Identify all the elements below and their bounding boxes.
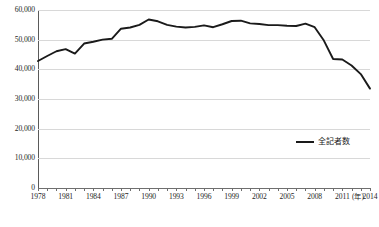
x-tick-mark: [222, 188, 223, 191]
x-tick-mark: [93, 188, 94, 191]
series-line-total-reporters: [38, 19, 370, 88]
x-tick-mark: [176, 188, 177, 191]
x-tick-mark: [278, 188, 279, 191]
x-axis-labels: 1978198119841987199019931996199920022005…: [0, 192, 379, 204]
y-tick-label: 40,000: [15, 65, 35, 73]
x-tick-label: 2011: [335, 192, 350, 201]
x-tick-mark: [342, 188, 343, 191]
x-tick-mark: [121, 188, 122, 191]
x-tick-mark: [287, 188, 288, 191]
x-tick-label: 1981: [58, 192, 73, 201]
x-tick-label: 1993: [169, 192, 184, 201]
x-tick-mark: [232, 188, 233, 191]
plot-area: [38, 10, 370, 188]
x-tick-mark: [204, 188, 205, 191]
x-tick-mark: [47, 188, 48, 191]
x-tick-label: 2008: [307, 192, 322, 201]
y-tick-label: 50,000: [15, 36, 35, 44]
x-tick-mark: [75, 188, 76, 191]
x-tick-mark: [84, 188, 85, 191]
x-tick-mark: [38, 188, 39, 191]
x-axis-unit-label: (年): [352, 192, 364, 201]
x-tick-mark: [149, 188, 150, 191]
legend-line-swatch: [296, 141, 314, 143]
y-tick-label: 30,000: [15, 95, 35, 103]
x-axis-ticks: [38, 188, 370, 191]
x-tick-label: 1999: [224, 192, 239, 201]
chart-figure: 010,00020,00030,00040,00050,00060,000 19…: [0, 0, 379, 227]
series-layer: [38, 10, 370, 188]
x-tick-mark: [305, 188, 306, 191]
x-tick-mark: [130, 188, 131, 191]
x-tick-mark: [139, 188, 140, 191]
x-tick-mark: [66, 188, 67, 191]
x-tick-mark: [315, 188, 316, 191]
x-tick-mark: [167, 188, 168, 191]
x-tick-mark: [269, 188, 270, 191]
x-tick-mark: [361, 188, 362, 191]
chart-legend: 全記者数: [296, 137, 350, 146]
x-tick-mark: [213, 188, 214, 191]
x-tick-mark: [112, 188, 113, 191]
x-tick-mark: [324, 188, 325, 191]
x-tick-mark: [186, 188, 187, 191]
y-tick-label: 20,000: [15, 125, 35, 133]
x-tick-mark: [103, 188, 104, 191]
y-tick-label: 0: [31, 184, 35, 192]
y-tick-label: 10,000: [15, 154, 35, 162]
x-tick-label: 2014: [363, 192, 378, 201]
x-tick-mark: [250, 188, 251, 191]
x-tick-mark: [158, 188, 159, 191]
x-tick-mark: [352, 188, 353, 191]
x-tick-label: 1987: [114, 192, 129, 201]
x-tick-mark: [56, 188, 57, 191]
x-tick-label: 1978: [31, 192, 46, 201]
x-tick-mark: [370, 188, 371, 191]
x-tick-mark: [241, 188, 242, 191]
x-tick-mark: [296, 188, 297, 191]
x-tick-mark: [259, 188, 260, 191]
x-tick-label: 1996: [197, 192, 212, 201]
x-tick-label: 2002: [252, 192, 267, 201]
x-tick-mark: [195, 188, 196, 191]
x-tick-label: 1990: [141, 192, 156, 201]
legend-label-total-reporters: 全記者数: [318, 137, 350, 146]
x-tick-mark: [333, 188, 334, 191]
x-tick-label: 2005: [280, 192, 295, 201]
y-tick-label: 60,000: [15, 6, 35, 14]
x-tick-label: 1984: [86, 192, 101, 201]
